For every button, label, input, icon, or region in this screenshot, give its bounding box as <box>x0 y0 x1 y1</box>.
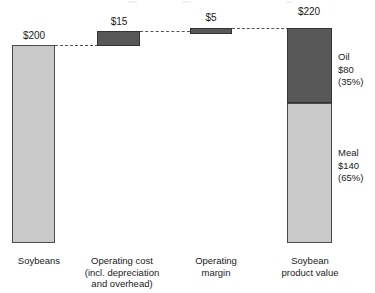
segment-label-oil-share: (35%) <box>338 76 363 89</box>
category-label-operating-cost-line2: (incl. depreciation <box>72 267 172 279</box>
category-label-operating-margin-line1: Operating <box>172 255 260 267</box>
bar-soybean-product-value <box>288 28 331 243</box>
segment-label-meal-share: (65%) <box>338 172 363 185</box>
connector-cost-to-margin <box>140 31 190 32</box>
segment-label-oil-name: Oil <box>338 51 363 64</box>
value-label-product-value: $220 <box>283 6 335 18</box>
bar-soybeans <box>12 45 55 243</box>
bar-operating-cost <box>97 31 140 46</box>
value-label-operating-margin: $5 <box>185 12 237 24</box>
segment-label-meal: Meal $140 (65%) <box>338 147 363 185</box>
category-label-soybeans: Soybeans <box>0 255 78 267</box>
segment-label-meal-name: Meal <box>338 147 363 160</box>
connector-soybeans-to-cost <box>55 45 98 46</box>
segment-label-oil-value: $80 <box>338 64 363 77</box>
category-label-operating-margin: Operating margin <box>172 255 260 278</box>
bar-segment-meal <box>287 103 332 243</box>
category-label-operating-cost-line3: and overhead) <box>72 278 172 290</box>
value-label-soybeans: $200 <box>8 30 60 42</box>
category-label-product-value-line1: Soybean <box>265 255 355 267</box>
connector-margin-to-total <box>232 28 289 29</box>
scan-artifact <box>128 1 137 3</box>
category-label-product-value-line2: product value <box>265 267 355 279</box>
category-label-operating-cost: Operating cost (incl. depreciation and o… <box>72 255 172 290</box>
bar-segment-oil <box>287 28 332 103</box>
segment-label-meal-value: $140 <box>338 160 363 173</box>
scan-artifact <box>286 1 293 3</box>
waterfall-chart: $200 $15 $5 $220 Oil $80 (35%) Meal $140… <box>0 0 375 293</box>
category-label-soybeans-line1: Soybeans <box>0 255 78 267</box>
segment-label-oil: Oil $80 (35%) <box>338 51 363 89</box>
bar-operating-margin <box>190 28 232 34</box>
category-label-product-value: Soybean product value <box>265 255 355 278</box>
value-label-operating-cost: $15 <box>93 16 145 28</box>
category-label-operating-margin-line2: margin <box>172 267 260 279</box>
scan-artifact <box>182 1 191 3</box>
category-label-operating-cost-line1: Operating cost <box>72 255 172 267</box>
